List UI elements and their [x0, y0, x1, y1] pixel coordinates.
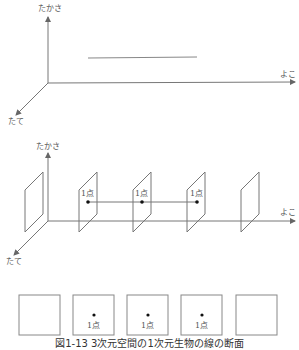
horizontal-axis-label: よこ: [280, 208, 296, 217]
intersection-point: [86, 200, 90, 204]
cross-section-5: [236, 295, 277, 335]
cross-section-1: [19, 295, 60, 335]
plane-2-point-label: 1点: [81, 189, 94, 198]
diagram-planes-slicing: たかさ よこ たて 1点 1点 1点: [6, 142, 296, 266]
intersection-point: [195, 200, 199, 204]
cross-section-point: [200, 313, 203, 316]
height-axis-label: たかさ: [38, 4, 62, 13]
intersection-point: [140, 200, 144, 204]
depth-axis: [16, 83, 48, 115]
cross-section-point: [92, 313, 95, 316]
diagram-3d-line: たかさ よこ たて: [8, 4, 296, 126]
one-dimensional-line: [88, 57, 197, 58]
plane-5: [241, 172, 259, 232]
cross-sections-row: 1点 1点 1点: [19, 295, 277, 335]
horizontal-axis: [48, 82, 295, 83]
plane-1: [25, 172, 43, 232]
depth-axis-label: たて: [6, 257, 22, 266]
cross-section-3-label: 1点: [141, 321, 154, 330]
plane-4-point-label: 1点: [190, 189, 203, 198]
horizontal-axis-label: よこ: [280, 70, 296, 79]
figure-caption: 図1-13 3次元空間の1次元生物の線の断面: [0, 338, 299, 350]
cross-section-point: [146, 313, 149, 316]
depth-axis-label: たて: [8, 117, 24, 126]
cross-section-2-label: 1点: [87, 321, 100, 330]
cross-section-4-label: 1点: [195, 321, 208, 330]
plane-3-point-label: 1点: [135, 189, 148, 198]
height-axis-label: たかさ: [36, 142, 60, 151]
